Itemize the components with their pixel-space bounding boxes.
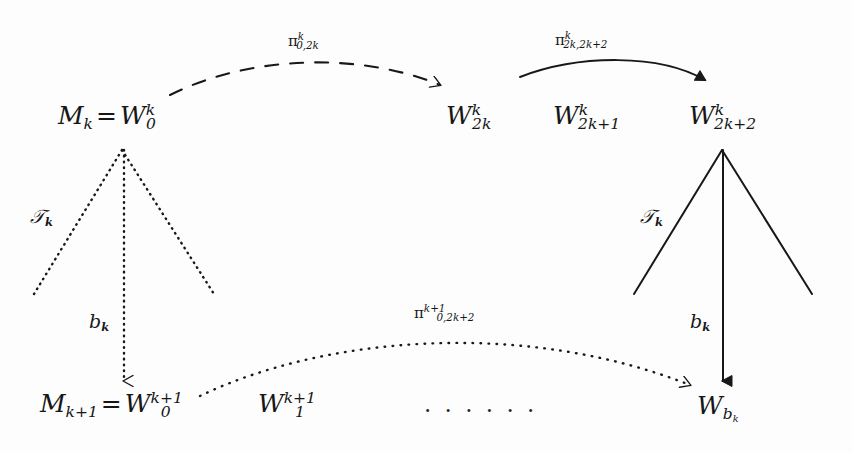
node-top-left-M: M bbox=[58, 101, 84, 130]
node-top-W2k2-sub: 2k+2 bbox=[714, 115, 756, 133]
label-left-vertical-bk: bk bbox=[89, 312, 109, 334]
node-top-W2k2-base: W bbox=[689, 101, 715, 130]
label-cone-right-T: 𝒯 bbox=[640, 205, 655, 227]
label-cone-right-T-sub: k bbox=[655, 215, 663, 229]
label-pi-2k-2k2-sub: 2k,2k+2 bbox=[563, 38, 607, 50]
node-bottom-Wbk-base: W bbox=[697, 391, 723, 420]
label-cone-right-Tk: 𝒯k bbox=[640, 207, 663, 229]
node-bottom-left-W-sub: 0 bbox=[161, 403, 171, 421]
label-cone-left-T: 𝒯 bbox=[30, 205, 45, 227]
node-bottom-W1-base: W bbox=[258, 389, 284, 418]
arrow-dashed-pi-0-2k bbox=[170, 62, 440, 95]
node-bottom-left-Mk1-eq-W0k1: Mk+1=Wk+10 bbox=[40, 391, 171, 420]
node-top-W2k-sub: 2k bbox=[472, 115, 491, 133]
label-pi-2k-2k2: πk2k,2k+2 bbox=[555, 30, 607, 50]
label-pi-0-2k: πk0,2k bbox=[288, 31, 319, 51]
label-right-vertical-b: b bbox=[690, 310, 702, 332]
node-bottom-W1-sub: 1 bbox=[295, 403, 305, 421]
node-bottom-Wbk-sub-b: b bbox=[723, 405, 733, 423]
node-top-left-W: W bbox=[120, 101, 146, 130]
node-bottom-Wbk: Wbk bbox=[697, 393, 738, 424]
node-bottom-left-equals: = bbox=[98, 389, 125, 418]
node-bottom-ellipsis: · · · · · · bbox=[424, 399, 537, 422]
node-top-W2k1-base: W bbox=[553, 101, 579, 130]
node-top-W2k1-sub: 2k+1 bbox=[578, 115, 620, 133]
label-left-vertical-b-sub: k bbox=[101, 320, 109, 334]
diagram-vector-layer bbox=[0, 0, 852, 453]
arrow-solid-pi-2k-2k2 bbox=[520, 60, 705, 80]
label-pi-0-2k2-sub: 0,2k+2 bbox=[436, 311, 474, 323]
label-pi-0-2k-sub: 0,2k bbox=[296, 39, 319, 51]
diagram-canvas: Mk=Wk0 Wk2k Wk2k+1 Wk2k+2 Mk+1=Wk+10 Wk+… bbox=[0, 0, 852, 453]
label-cone-left-Tk: 𝒯k bbox=[30, 207, 53, 229]
node-top-left-M-sub: k bbox=[84, 115, 93, 133]
node-bottom-left-M: M bbox=[40, 389, 66, 418]
node-bottom-W1: Wk+11 bbox=[258, 391, 305, 420]
node-top-W2k2: Wk2k+2 bbox=[689, 103, 756, 132]
node-top-left-equals: = bbox=[93, 101, 120, 130]
node-bottom-Wbk-sub: bk bbox=[723, 405, 739, 423]
label-right-vertical-bk: bk bbox=[690, 312, 710, 334]
label-cone-left-T-sub: k bbox=[45, 215, 53, 229]
pi-icon-dotted: π bbox=[414, 304, 424, 322]
node-top-W2k1: Wk2k+1 bbox=[553, 103, 620, 132]
node-top-left-Mk-eq-W0k: Mk=Wk0 bbox=[58, 103, 156, 132]
label-pi-0-2k2: πk+10,2k+2 bbox=[414, 303, 474, 323]
node-top-W2k-base: W bbox=[446, 101, 472, 130]
label-right-vertical-b-sub: k bbox=[702, 320, 710, 334]
cone-right-edge-trailing bbox=[722, 150, 812, 294]
cone-left-edge-trailing bbox=[122, 150, 214, 294]
node-bottom-Wbk-sub-k: k bbox=[733, 413, 739, 424]
node-top-left-W-sub: 0 bbox=[146, 115, 156, 133]
node-bottom-left-M-sub: k+1 bbox=[66, 403, 98, 421]
node-top-W2k: Wk2k bbox=[446, 103, 491, 132]
node-bottom-left-W: W bbox=[125, 389, 151, 418]
label-left-vertical-b: b bbox=[89, 310, 101, 332]
